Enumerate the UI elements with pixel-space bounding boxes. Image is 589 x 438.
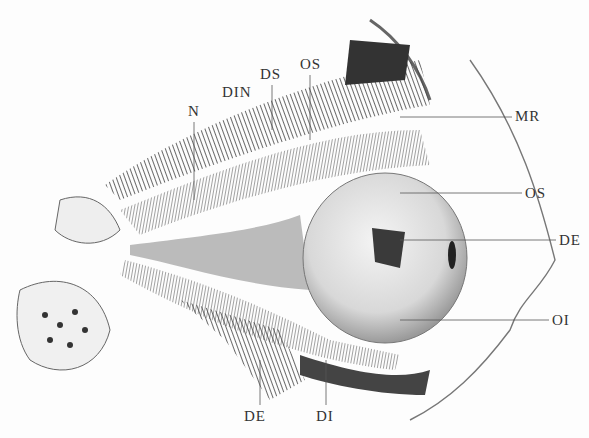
eye-muscle-drawing bbox=[0, 0, 589, 438]
label-os-top: OS bbox=[300, 56, 321, 73]
label-de-right: DE bbox=[559, 232, 581, 249]
label-mr: MR bbox=[515, 108, 540, 125]
label-de-bottom: DE bbox=[244, 408, 266, 425]
label-os-right: OS bbox=[525, 185, 546, 202]
anatomical-illustration: N DIN DS OS MR OS DE OI DE DI bbox=[0, 0, 589, 438]
label-ds: DS bbox=[260, 66, 281, 83]
label-oi: OI bbox=[552, 312, 570, 329]
label-din: DIN bbox=[222, 84, 252, 101]
label-di: DI bbox=[316, 408, 334, 425]
label-n: N bbox=[188, 103, 200, 120]
